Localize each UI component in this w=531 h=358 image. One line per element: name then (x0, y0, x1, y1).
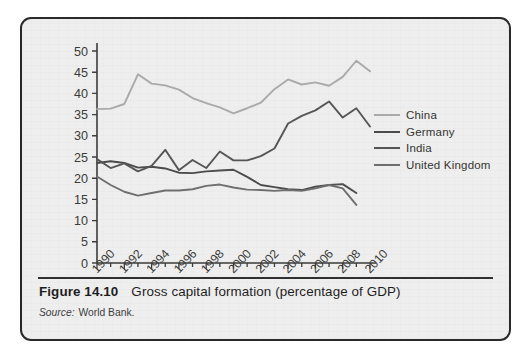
y-axis-tick-label: 40 (74, 87, 88, 101)
x-axis-tick-label: 1992 (116, 247, 145, 277)
x-axis-tick-label: 2004 (280, 247, 309, 277)
figure-caption-block: Figure 14.10Gross capital formation (per… (22, 277, 511, 339)
y-axis-tick-label: 25 (74, 151, 88, 165)
legend-swatch-icon (374, 147, 400, 149)
figure-source: Source:World Bank. (39, 307, 134, 318)
y-axis-tick-label: 5 (81, 235, 88, 249)
x-axis-tick-label: 2010 (362, 247, 391, 277)
series-line-china (97, 61, 370, 114)
legend-label: India (406, 142, 432, 154)
chart-legend: ChinaGermanyIndiaUnited Kingdom (374, 107, 506, 173)
y-axis-tick-label: 20 (74, 172, 88, 186)
y-axis-tick-label: 35 (74, 108, 88, 122)
source-label: Source: (39, 307, 75, 318)
series-line-india (97, 101, 370, 171)
legend-item: United Kingdom (374, 157, 506, 174)
figure-title: Gross capital formation (percentage of G… (131, 284, 400, 299)
x-axis-tick-label: 2008 (335, 247, 364, 277)
legend-swatch-icon (374, 164, 400, 166)
x-axis-tick-label: 2002 (253, 247, 282, 277)
y-axis-tick-label: 50 (74, 45, 88, 59)
series-line-united-kingdom (97, 177, 356, 205)
legend-label: Germany (406, 126, 455, 138)
legend-item: Germany (374, 124, 506, 141)
x-axis-tick-label: 1990 (89, 247, 118, 277)
x-axis-tick-label: 1998 (198, 247, 227, 277)
y-axis-tick-label: 0 (81, 257, 88, 271)
source-value: World Bank. (79, 307, 135, 318)
y-axis-tick-label: 10 (74, 214, 88, 228)
figure-caption: Figure 14.10Gross capital formation (per… (39, 284, 401, 299)
y-axis-tick-label: 45 (74, 66, 88, 80)
caption-divider (38, 277, 493, 279)
figure-card: 0510152025303540455019901992199419961998… (20, 17, 511, 341)
x-axis-tick-label: 1994 (144, 247, 173, 277)
figure-number: Figure 14.10 (39, 284, 118, 299)
x-axis-tick-label: 2000 (225, 247, 254, 277)
x-axis-tick-label: 2006 (307, 247, 336, 277)
legend-item: China (374, 107, 506, 124)
legend-item: India (374, 140, 506, 157)
y-axis-tick-label: 15 (74, 193, 88, 207)
y-axis-tick-label: 30 (74, 129, 88, 143)
legend-swatch-icon (374, 114, 400, 116)
legend-swatch-icon (374, 131, 400, 133)
x-axis-tick-label: 1996 (171, 247, 200, 277)
legend-label: United Kingdom (406, 159, 491, 171)
legend-label: China (406, 109, 437, 121)
